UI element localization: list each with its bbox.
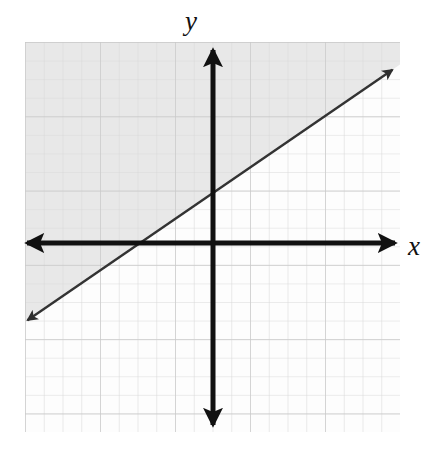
- x-axis-label: x: [408, 233, 420, 260]
- coordinate-plane-figure: [0, 0, 439, 457]
- y-axis-label: y: [185, 8, 197, 35]
